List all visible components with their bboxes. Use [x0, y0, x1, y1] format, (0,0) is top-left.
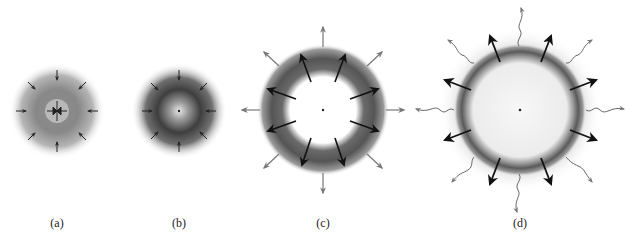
panel-a — [9, 63, 105, 159]
center-dot-d — [519, 109, 522, 112]
center-dot-b — [178, 110, 180, 112]
panel-label-c: (c) — [316, 216, 329, 231]
figure-canvas — [0, 0, 635, 239]
panel-label-a: (a) — [50, 216, 63, 231]
center-dot-c — [322, 109, 324, 111]
panel-c — [242, 27, 404, 193]
panel-label-b: (b) — [172, 216, 186, 231]
panel-label-d: (d) — [513, 216, 527, 231]
panel-b — [131, 63, 227, 159]
panel-d — [416, 8, 624, 212]
